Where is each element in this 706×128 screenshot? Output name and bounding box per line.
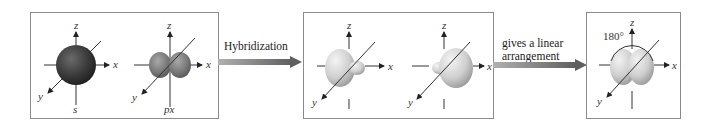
- linear-arrangement-label-line1: gives a linear: [502, 37, 588, 50]
- svg-text:y: y: [37, 90, 43, 102]
- svg-text:y: y: [596, 95, 602, 107]
- sp-hybrid-orbital-left: z x y: [311, 19, 393, 109]
- svg-text:x: x: [112, 58, 118, 70]
- combined-sp-orbitals: z x y 180°: [596, 16, 677, 109]
- svg-text:y: y: [407, 96, 413, 108]
- svg-text:z: z: [629, 16, 635, 28]
- svg-text:z: z: [346, 19, 352, 31]
- svg-text:z: z: [73, 19, 79, 31]
- sp-hybrid-orbital-right: z x y: [407, 19, 492, 109]
- hybridization-label: Hybridization: [224, 40, 288, 53]
- atomic-orbitals-figure: z x y s z x y px: [31, 13, 220, 120]
- svg-text:y: y: [131, 91, 137, 103]
- linear-arrangement-panel: z x y 180°: [586, 12, 681, 119]
- svg-text:x: x: [387, 60, 393, 72]
- svg-text:y: y: [311, 96, 317, 108]
- svg-text:x: x: [671, 59, 677, 71]
- linear-arrangement-figure: z x y 180°: [587, 13, 682, 120]
- svg-text:x: x: [205, 58, 211, 70]
- atomic-orbitals-panel: z x y s z x y px: [30, 12, 219, 119]
- svg-text:x: x: [486, 60, 492, 72]
- angle-label: 180°: [603, 30, 624, 42]
- svg-text:z: z: [441, 19, 447, 31]
- svg-text:px: px: [163, 103, 175, 115]
- sp-hybrid-orbitals-panel: z x y z x y: [303, 12, 494, 119]
- svg-text:z: z: [166, 19, 172, 31]
- sp-hybrid-orbitals-figure: z x y z x y: [304, 13, 495, 120]
- s-orbital: z x y s: [37, 19, 118, 115]
- hybridization-arrow: [218, 56, 302, 68]
- px-orbital: z x y px: [131, 19, 211, 115]
- linear-arrangement-arrow: [493, 59, 587, 71]
- svg-text:s: s: [73, 103, 77, 115]
